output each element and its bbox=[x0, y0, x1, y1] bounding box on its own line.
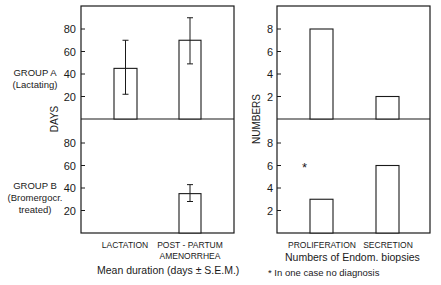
category-label-secretion: SECRETION bbox=[363, 240, 413, 250]
category-label-amenorrhea: AMENORRHEA bbox=[160, 251, 221, 261]
bar bbox=[310, 199, 333, 233]
y-tick-label: 60 bbox=[64, 46, 76, 58]
y-tick-label: 8 bbox=[267, 137, 273, 149]
asterisk-annotation: * bbox=[302, 160, 307, 175]
group-b-label: GROUP B bbox=[13, 180, 57, 191]
right-chart-caption: Numbers of Endom. biopsies bbox=[285, 251, 420, 263]
duration-panel: 2040608020406080 bbox=[64, 6, 234, 233]
y-tick-label: 40 bbox=[64, 68, 76, 80]
left-chart-caption: Mean duration (days ± S.E.M.) bbox=[97, 264, 239, 276]
y-tick-label: 80 bbox=[64, 23, 76, 35]
y-tick-label: 2 bbox=[267, 91, 273, 103]
category-label-proliferation: PROLIFERATION bbox=[288, 240, 356, 250]
group-b-label: (Bromergocr. bbox=[8, 192, 63, 203]
y-tick-label: 8 bbox=[267, 23, 273, 35]
category-label-amenorrhea: POST - PARTUM bbox=[157, 240, 223, 250]
y-tick-label: 20 bbox=[64, 91, 76, 103]
endometrial-study-figure: 204060802040608024682468*GROUP A(Lactati… bbox=[0, 0, 441, 285]
y-axis-title-days: DAYS bbox=[49, 105, 60, 132]
y-axis-title-numbers: NUMBERS bbox=[251, 94, 262, 144]
y-tick-label: 6 bbox=[267, 46, 273, 58]
category-label-lactation: LACTATION bbox=[102, 240, 148, 250]
group-b-label: treated) bbox=[19, 204, 52, 215]
y-tick-label: 2 bbox=[267, 205, 273, 217]
y-tick-label: 20 bbox=[64, 205, 76, 217]
footnote: * In one case no diagnosis bbox=[268, 267, 380, 278]
y-tick-label: 4 bbox=[267, 182, 273, 194]
bar bbox=[310, 29, 333, 119]
bar bbox=[376, 97, 399, 120]
biopsy-panel: 24682468* bbox=[267, 6, 430, 233]
y-tick-label: 40 bbox=[64, 182, 76, 194]
y-tick-label: 80 bbox=[64, 137, 76, 149]
bar bbox=[376, 166, 399, 234]
y-tick-label: 6 bbox=[267, 160, 273, 172]
group-a-label: (Lactating) bbox=[13, 79, 58, 90]
y-tick-label: 4 bbox=[267, 68, 273, 80]
group-a-label: GROUP A bbox=[13, 67, 57, 78]
y-tick-label: 60 bbox=[64, 160, 76, 172]
